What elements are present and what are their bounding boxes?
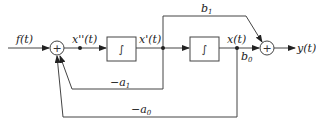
b1-feedforward-line <box>163 16 262 48</box>
summer-1-plus: + <box>52 42 61 55</box>
output-label: y(t) <box>296 42 316 55</box>
block-diagram: + + ∫ ∫ f(t) x''(t) x'(t) x(t) y(t) b1 b… <box>0 0 316 128</box>
x1-label: x'(t) <box>139 33 161 46</box>
summer-2-plus: + <box>262 42 271 55</box>
gain-a0: −a0 <box>131 103 152 117</box>
x2-label: x''(t) <box>72 33 97 46</box>
x0-label: x(t) <box>227 33 246 46</box>
input-label: f(t) <box>15 33 33 46</box>
gain-b0: b0 <box>241 50 253 64</box>
a0-feedback-line <box>57 48 237 117</box>
gain-a1: −a1 <box>110 76 130 90</box>
gain-b1: b1 <box>201 2 213 16</box>
junction-x2 <box>78 46 82 50</box>
junction-x0 <box>235 46 239 50</box>
junction-x1 <box>161 46 165 50</box>
integrator-1-symbol: ∫ <box>119 43 125 56</box>
integrator-2-symbol: ∫ <box>202 43 208 56</box>
